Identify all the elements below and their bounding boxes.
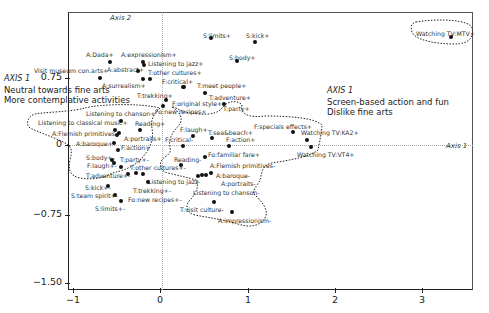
point-label: A:Flemish primitives- — [210, 163, 275, 169]
data-point-marker — [305, 138, 309, 142]
point-label: F:original style+ — [172, 101, 222, 107]
point-label: S:limits+- — [95, 206, 125, 212]
data-point-marker — [119, 199, 123, 203]
point-label: A:expressionism+ — [121, 52, 177, 58]
point-label: A:portraits+ — [124, 136, 162, 142]
point-label: Watching TV:VT4+ — [297, 152, 355, 158]
data-point-marker — [309, 145, 313, 149]
data-point-marker — [98, 76, 102, 80]
data-point-marker — [141, 77, 145, 81]
point-label: F:action+ — [226, 137, 255, 143]
point-label: Listening to jazz- — [148, 179, 201, 185]
point-label: Fo:new recipes+ — [155, 109, 206, 115]
data-point-marker — [449, 35, 453, 39]
data-point-marker — [227, 144, 231, 148]
data-point-marker — [230, 210, 234, 214]
point-label: A:Flemish primitives+ — [52, 131, 120, 137]
point-label: A:baroque- — [216, 173, 250, 179]
data-point-marker — [291, 130, 295, 134]
data-point-marker — [209, 36, 213, 40]
data-point-marker — [115, 133, 119, 137]
point-label: Watching TV:KA2+ — [301, 130, 359, 136]
data-point-marker — [210, 136, 214, 140]
data-point-marker — [164, 98, 168, 102]
point-label: S:limits+ — [203, 33, 231, 39]
point-label: A:impressionism- — [218, 218, 271, 224]
point-label: T:party+- — [120, 157, 149, 163]
point-label: T:trekking+- — [133, 188, 171, 194]
data-point-marker — [134, 171, 138, 175]
point-label: T:adventure+- — [86, 173, 130, 179]
data-point-marker — [119, 165, 123, 169]
point-label: Listening to chanson- — [193, 190, 259, 196]
point-label: A:Dada+ — [86, 52, 114, 58]
data-point-marker — [161, 104, 165, 108]
data-point-marker — [108, 60, 112, 64]
data-point-marker — [253, 40, 257, 44]
data-point-marker — [203, 155, 207, 159]
data-point-marker — [212, 200, 216, 204]
point-label: F:laugh+ — [180, 127, 208, 133]
point-label: F:critical- — [165, 137, 193, 143]
point-label: A:surrealism+ — [102, 83, 146, 89]
data-point-marker — [138, 128, 142, 132]
data-point-marker — [146, 180, 150, 184]
point-label: A:portraits- — [221, 181, 256, 187]
point-label: S:kick+ — [246, 33, 269, 39]
point-label: F:action+ — [121, 145, 150, 151]
data-point-marker — [126, 172, 130, 176]
point-label: Watching TV:MTV+ — [416, 31, 475, 37]
point-label: A:baroque+ — [76, 141, 113, 147]
data-point-marker — [136, 69, 140, 73]
data-point-marker — [116, 148, 120, 152]
point-label: Reading+ — [135, 121, 165, 127]
point-label: T:meet people+ — [197, 83, 246, 89]
data-point-marker — [112, 161, 116, 165]
point-label: Listening to classical music+ — [38, 120, 128, 126]
data-point-marker — [182, 85, 186, 89]
point-label: S:team spirit+- — [71, 193, 118, 199]
point-label: Fo:familiar fare+ — [208, 152, 260, 158]
data-point-marker — [200, 173, 204, 177]
data-point-marker — [106, 184, 110, 188]
data-point-marker — [112, 141, 116, 145]
point-label: T:other cultures+ — [148, 70, 202, 76]
point-label: Listening to chanson+ — [86, 111, 155, 117]
data-point-marker — [113, 193, 117, 197]
data-point-marker — [141, 172, 145, 176]
point-label: Reading- — [174, 157, 201, 163]
data-point-marker — [181, 144, 185, 148]
data-point-marker — [222, 102, 226, 106]
point-label: T:visit culture- — [180, 207, 224, 213]
data-point-marker — [148, 77, 152, 81]
data-point-marker — [204, 173, 208, 177]
point-label: Listening to jazz+ — [148, 61, 203, 67]
point-label: F:critical+ — [162, 79, 193, 85]
point-label: Visit museum con.arts+ — [34, 68, 108, 74]
point-label: T:party+ — [223, 106, 250, 112]
point-label: T:other cultures+- — [130, 165, 186, 171]
data-point-marker — [203, 91, 207, 95]
data-point-marker — [209, 171, 213, 175]
point-label: S:body+ — [229, 55, 256, 61]
data-point-marker — [235, 59, 239, 63]
point-label: Fo:new recipes+- — [128, 197, 182, 203]
